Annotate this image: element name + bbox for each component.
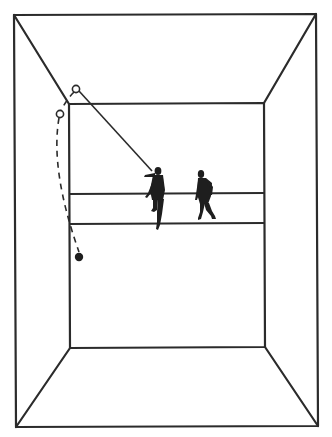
ball-contact-icon [72,85,79,92]
floor-edge-left [16,348,70,427]
front-wall [69,103,265,348]
service-line [70,223,264,224]
ball-rebound-icon [56,110,63,117]
short-line [70,193,264,194]
court-diagram [0,0,332,437]
player-hitting-icon [144,167,165,230]
ceiling-edge-left [14,15,69,104]
ball-final-icon [75,253,83,261]
ceiling-edge-right [264,14,316,103]
player-waiting-icon [195,170,216,220]
floor-edge-right [265,347,318,426]
court-svg [0,0,332,437]
